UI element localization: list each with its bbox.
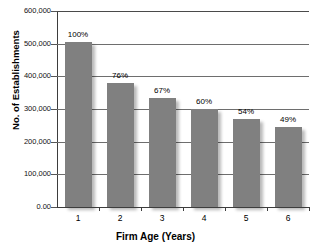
bar	[233, 119, 260, 207]
x-axis-tick-mark	[183, 207, 184, 211]
gridline	[57, 142, 309, 143]
bar-chart: No. of Establishments 600,000500,000400,…	[0, 0, 311, 250]
y-axis-tick-label: 200,000	[5, 138, 51, 146]
x-axis-tick-label: 4	[184, 213, 224, 223]
bar-data-label: 67%	[140, 86, 184, 95]
y-axis-tick-label: 400,000	[5, 72, 51, 80]
gridline	[57, 174, 309, 175]
gridline	[57, 109, 309, 110]
x-axis-title: Firm Age (Years)	[0, 231, 311, 242]
y-axis-tick-mark	[51, 109, 57, 110]
bar-data-label: 49%	[266, 115, 310, 124]
x-axis-tick-label: 1	[58, 213, 98, 223]
x-axis-tick-label: 3	[142, 213, 182, 223]
y-axis-tick-labels: 600,000500,000400,000300,000200,000100,0…	[0, 0, 51, 250]
bar-data-label: 76%	[98, 71, 142, 80]
x-axis-tick-mark	[225, 207, 226, 211]
gridline	[57, 76, 309, 77]
x-axis-tick-label: 6	[268, 213, 308, 223]
bar-data-label: 100%	[56, 30, 100, 39]
bar	[275, 127, 302, 207]
x-axis-tick-label: 5	[226, 213, 266, 223]
x-axis-tick-label: 2	[100, 213, 140, 223]
x-axis-tick-mark	[267, 207, 268, 211]
gridline	[57, 11, 309, 12]
bar	[65, 42, 92, 207]
y-axis-tick-mark	[51, 142, 57, 143]
bar-data-label: 54%	[224, 107, 268, 116]
y-axis-tick-mark	[51, 174, 57, 175]
bar-data-label: 60%	[182, 97, 226, 106]
bar	[191, 109, 218, 207]
y-axis-tick-mark	[51, 44, 57, 45]
y-axis-tick-mark	[51, 76, 57, 77]
y-axis-tick-label: 0.00	[5, 203, 51, 211]
x-axis-tick-mark	[141, 207, 142, 211]
plot-area: 100%76%67%60%54%49%	[57, 11, 309, 207]
bar	[107, 83, 134, 207]
y-axis-tick-label: 100,000	[5, 170, 51, 178]
bar	[149, 98, 176, 207]
y-axis-tick-mark	[51, 207, 57, 208]
y-axis-tick-label: 600,000	[5, 7, 51, 15]
x-axis-tick-mark	[309, 207, 310, 211]
y-axis-tick-label: 300,000	[5, 105, 51, 113]
gridline	[57, 44, 309, 45]
y-axis-tick-label: 500,000	[5, 40, 51, 48]
x-axis-tick-mark	[99, 207, 100, 211]
y-axis-tick-mark	[51, 11, 57, 12]
